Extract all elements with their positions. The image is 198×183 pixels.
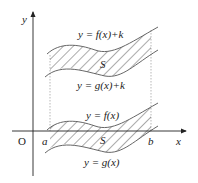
- y-axis-label: y: [21, 13, 27, 25]
- f-label: y = f(x): [85, 109, 119, 122]
- b-label: b: [148, 135, 154, 147]
- g-plus-k-label: y = g(x)+k: [76, 79, 126, 92]
- diagram-canvas: y x O a b y = f(x)+k S y = g(x)+k y = f(…: [0, 0, 198, 183]
- area-translation-diagram: y x O a b y = f(x)+k S y = g(x)+k y = f(…: [0, 0, 198, 183]
- g-label: y = g(x): [83, 156, 120, 169]
- f-plus-k-label: y = f(x)+k: [77, 28, 124, 41]
- origin-label: O: [18, 135, 26, 147]
- x-axis-label: x: [175, 135, 181, 147]
- upper-area-label: S: [100, 58, 106, 70]
- a-label: a: [42, 135, 48, 147]
- lower-area-label: S: [100, 134, 106, 146]
